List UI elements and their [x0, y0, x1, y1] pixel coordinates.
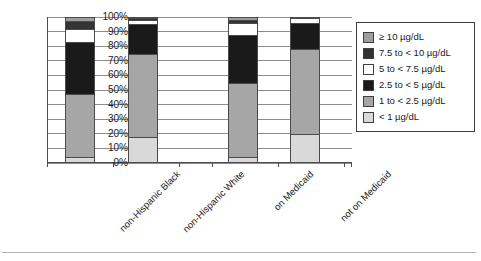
legend-item-label: < 1 µg/dL — [379, 112, 419, 122]
y-axis-tick-label: 10% — [88, 143, 128, 153]
y-axis-tick-label: 80% — [88, 41, 128, 51]
bar-segment — [290, 134, 320, 163]
y-axis-tick-label: 70% — [88, 56, 128, 66]
y-axis-line — [47, 17, 48, 163]
x-axis-tick — [179, 163, 180, 167]
page-rule — [2, 252, 476, 253]
y-axis-tick-label: 50% — [88, 85, 128, 95]
legend-item-label: ≥ 10 µg/dL — [379, 32, 424, 42]
bar-segment — [128, 137, 158, 163]
legend-item-label: 2.5 to < 5 µg/dL — [379, 80, 445, 90]
bar — [128, 17, 158, 163]
legend-item[interactable]: < 1 µg/dL — [363, 109, 469, 125]
bar-segment — [228, 35, 258, 83]
bar — [290, 17, 320, 163]
legend-swatch-icon — [363, 64, 374, 75]
bar-segment — [228, 17, 258, 20]
bar-segment — [128, 18, 158, 19]
bar-segment — [290, 23, 320, 49]
x-axis-tick — [351, 163, 352, 167]
bar-segment — [228, 83, 258, 157]
legend-swatch-icon — [363, 112, 374, 123]
y-axis-tick-label: 20% — [88, 129, 128, 139]
legend-item[interactable]: 7.5 to < 10 µg/dL — [363, 45, 469, 61]
x-axis-tick — [344, 163, 345, 167]
legend: ≥ 10 µg/dL7.5 to < 10 µg/dL5 to < 7.5 µg… — [356, 22, 475, 132]
legend-item-label: 1 to < 2.5 µg/dL — [379, 96, 445, 106]
legend-item[interactable]: 1 to < 2.5 µg/dL — [363, 93, 469, 109]
legend-item-label: 5 to < 7.5 µg/dL — [379, 64, 445, 74]
bar-segment — [128, 17, 158, 18]
bar — [228, 17, 258, 163]
y-axis-tick-label: 60% — [88, 70, 128, 80]
x-axis-category-label: non-Hispanic White — [181, 169, 246, 234]
x-axis-category-label: non-Hispanic Black — [118, 169, 183, 234]
x-axis-category-label: not on Medicaid — [339, 169, 394, 224]
y-axis-tick-label: 90% — [88, 27, 128, 37]
legend-swatch-icon — [363, 96, 374, 107]
legend-item-label: 7.5 to < 10 µg/dL — [379, 48, 451, 58]
bar-segment — [128, 20, 158, 24]
y-axis-tick-label: 40% — [88, 100, 128, 110]
y-axis-tick-label: 100% — [88, 12, 128, 22]
bar-segment — [290, 17, 320, 18]
x-axis-tick — [278, 163, 279, 167]
legend-item[interactable]: 2.5 to < 5 µg/dL — [363, 77, 469, 93]
bar-segment — [290, 18, 320, 22]
bar-segment — [128, 54, 158, 137]
stacked-bar-chart: 0%10%20%30%40%50%60%70%80%90%100% non-Hi… — [0, 0, 481, 261]
bar-segment — [290, 49, 320, 134]
legend-swatch-icon — [363, 80, 374, 91]
legend-item[interactable]: 5 to < 7.5 µg/dL — [363, 61, 469, 77]
bar-segment — [128, 24, 158, 53]
bar-segment — [228, 20, 258, 23]
legend-swatch-icon — [363, 48, 374, 59]
y-axis-tick-label: 0% — [88, 158, 128, 168]
y-axis-tick-label: 30% — [88, 114, 128, 124]
legend-item[interactable]: ≥ 10 µg/dL — [363, 29, 469, 45]
bar-segment — [228, 23, 258, 35]
x-axis-tick — [47, 163, 48, 167]
x-axis-category-label: on Medicaid — [272, 169, 315, 212]
x-axis-tick — [212, 163, 213, 167]
legend-swatch-icon — [363, 32, 374, 43]
